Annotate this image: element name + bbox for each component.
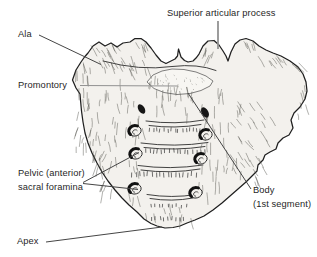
label-superior-articular-process: Superior articular process	[167, 7, 276, 21]
label-ala: Ala	[18, 28, 32, 42]
anatomy-figure-sacrum: Superior articular process Ala Promontor…	[0, 0, 317, 257]
label-promontory: Promontory	[18, 79, 67, 93]
label-body-1st-segment: Body (1st segment)	[253, 184, 311, 211]
label-pelvic-sacral-foramina: Pelvic (anterior) sacral foramina	[18, 167, 85, 194]
sacrum-illustration	[0, 0, 317, 257]
leader-promontory	[80, 86, 177, 87]
leader-apex	[46, 227, 162, 242]
label-apex: Apex	[17, 235, 39, 249]
